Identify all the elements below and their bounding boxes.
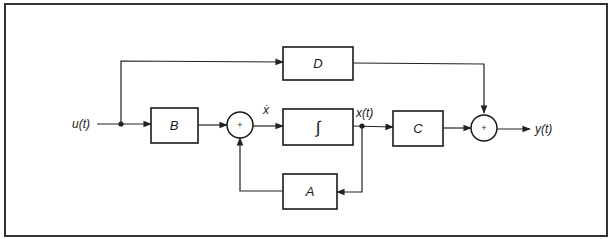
- svg-text:+: +: [237, 120, 242, 130]
- state-space-block-diagram: u(t) D B + ẋ ∫ x(t) C + y(t): [0, 0, 611, 239]
- svg-text:D: D: [313, 56, 322, 71]
- summing-junction-1: +: [227, 112, 253, 138]
- block-a: A: [283, 174, 337, 209]
- state-label: x(t): [355, 106, 373, 120]
- block-integrator: ∫: [283, 109, 353, 145]
- svg-text:C: C: [413, 121, 423, 136]
- summing-junction-2: +: [471, 115, 497, 141]
- state-derivative-label: ẋ: [262, 103, 270, 117]
- svg-text:+: +: [481, 123, 486, 133]
- input-label: u(t): [72, 117, 90, 131]
- block-c: C: [393, 111, 443, 146]
- block-d: D: [283, 47, 353, 80]
- svg-text:A: A: [305, 184, 315, 199]
- output-label: y(t): [534, 122, 552, 136]
- block-b: B: [151, 108, 198, 143]
- svg-text:B: B: [170, 118, 179, 133]
